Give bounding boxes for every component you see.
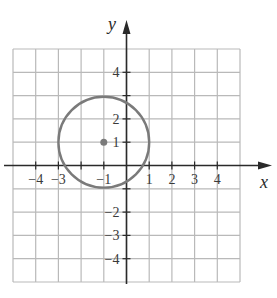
y-tick-label: 2 [113, 112, 120, 127]
y-tick-label: 4 [113, 65, 120, 80]
x-tick-label: 3 [191, 172, 198, 187]
x-tick-label: −1 [96, 172, 111, 187]
x-tick-label: 2 [168, 172, 175, 187]
y-axis-label: y [106, 14, 116, 34]
x-tick-label: −3 [51, 172, 66, 187]
y-tick-label: −4 [105, 252, 120, 267]
axes [4, 20, 272, 284]
x-tick-label: −4 [28, 172, 43, 187]
coordinate-plane: −4−3−11234421−2−3−4 x y [0, 0, 277, 298]
x-axis-arrow-icon [258, 162, 272, 170]
y-tick-label: −3 [105, 228, 120, 243]
x-tick-label: 4 [214, 172, 221, 187]
y-axis-arrow-icon [123, 20, 131, 34]
x-axis-label: x [259, 172, 268, 192]
y-tick-label: −2 [105, 205, 120, 220]
center-point [100, 139, 107, 146]
y-tick-label: 1 [113, 135, 120, 150]
x-tick-label: 1 [146, 172, 153, 187]
